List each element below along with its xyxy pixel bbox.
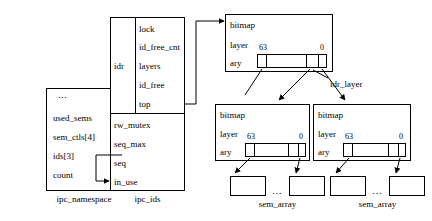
connector-top-ary-to-left-layer-arrow bbox=[279, 69, 310, 100]
ipc-namespace-row-ids: ids[3] bbox=[53, 151, 74, 161]
ipc-ids-row-top: top bbox=[139, 99, 151, 109]
diagram-canvas: ⋮ used_sems sem_ctls[4] ids[3] count ipc… bbox=[0, 0, 432, 221]
ipc-ids-divider bbox=[110, 113, 185, 114]
idr-layer-top-row-layer: layer bbox=[230, 40, 248, 50]
sem-array-right-box-1 bbox=[330, 176, 366, 196]
sem-array-left-box-1 bbox=[230, 176, 266, 196]
ipc-ids-row-rw-mutex: rw_mutex bbox=[114, 120, 151, 130]
sem-array-right-caption: sem_array bbox=[330, 199, 425, 209]
ipc-namespace-row-count: count bbox=[53, 170, 73, 180]
idr-layer-top-ary-strip bbox=[257, 54, 327, 68]
ipc-ids-row-lock: lock bbox=[139, 24, 155, 34]
idr-layer-top-index-low: 0 bbox=[320, 43, 324, 52]
ipc-ids-caption: ipc_ids bbox=[110, 194, 185, 204]
ipc-ids-row-seq: seq bbox=[114, 158, 126, 168]
ipc-ids-idr-label: idr bbox=[114, 61, 124, 71]
idr-layer-top-index-high: 63 bbox=[259, 43, 267, 52]
idr-layer-right-index-low: 0 bbox=[399, 132, 403, 141]
connector-top-to-idr-layer bbox=[185, 21, 224, 104]
idr-layer-left-ary-cell-divider-3 bbox=[298, 143, 299, 157]
idr-layer-top-row-bitmap: bitmap bbox=[230, 20, 255, 30]
sem-array-left-box-2 bbox=[289, 176, 325, 196]
idr-layer-callout-label: idr_layer bbox=[330, 79, 362, 89]
idr-layer-right-ary-cell-divider-3 bbox=[398, 143, 399, 157]
idr-layer-top-ary-cell-divider-2 bbox=[306, 54, 307, 68]
idr-layer-right-ary-cell-divider-1 bbox=[352, 143, 353, 157]
ipc-ids-row-in-use: in_use bbox=[114, 177, 138, 187]
ipc-namespace-row-used-sems: used_sems bbox=[53, 113, 92, 123]
idr-layer-left-index-low: 0 bbox=[299, 132, 303, 141]
sem-array-left-caption: sem_array bbox=[230, 199, 325, 209]
idr-layer-top-ary-cell-divider-3 bbox=[318, 54, 319, 68]
ipc-namespace-ellipsis: ⋮ bbox=[57, 93, 66, 102]
idr-layer-top-row-ary: ary bbox=[230, 58, 242, 68]
sem-array-left-ellipsis: … bbox=[272, 186, 283, 196]
ipc-ids-row-id-free: id_free bbox=[139, 80, 164, 90]
idr-layer-left-ary-cell-divider-2 bbox=[288, 143, 289, 157]
ipc-namespace-row-sem-ctls: sem_ctls[4] bbox=[53, 132, 95, 142]
idr-layer-right-ary-cell-divider-2 bbox=[388, 143, 389, 157]
ipc-ids-row-layers: layers bbox=[139, 61, 161, 71]
idr-layer-left-row-bitmap: bitmap bbox=[220, 110, 245, 120]
idr-layer-top-ary-cell-divider-1 bbox=[266, 54, 267, 68]
idr-layer-left-row-layer: layer bbox=[220, 129, 238, 139]
ipc-ids-idr-column-divider bbox=[135, 17, 136, 113]
idr-layer-right-row-layer: layer bbox=[318, 129, 336, 139]
sem-array-right-box-2 bbox=[389, 176, 425, 196]
idr-layer-left-row-ary: ary bbox=[220, 147, 232, 157]
idr-layer-left-index-high: 63 bbox=[247, 132, 255, 141]
idr-layer-left-ary-cell-divider-1 bbox=[254, 143, 255, 157]
idr-layer-right-index-high: 63 bbox=[345, 132, 353, 141]
connector-top-ary-to-left-layer bbox=[245, 69, 262, 95]
sem-array-right-ellipsis: … bbox=[372, 186, 383, 196]
idr-layer-right-row-ary: ary bbox=[318, 147, 330, 157]
ipc-ids-row-id-free-cnt: id_free_cnt bbox=[139, 42, 180, 52]
ipc-ids-row-seq-max: seq_max bbox=[114, 139, 146, 149]
idr-layer-right-row-bitmap: bitmap bbox=[318, 110, 343, 120]
